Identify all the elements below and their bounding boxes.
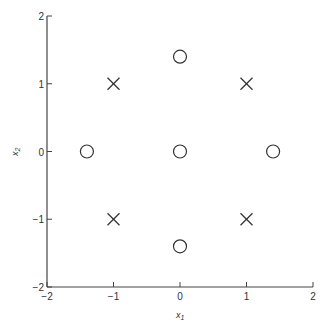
- cross-marker: [108, 78, 120, 90]
- x-tick-label: −1: [108, 291, 120, 302]
- circle-marker: [174, 145, 187, 158]
- x-axis-label: x1: [175, 310, 185, 321]
- data-points: [80, 50, 279, 253]
- cross-marker: [108, 213, 120, 225]
- y-tick-label: 1: [38, 79, 44, 90]
- x-tick-label: 0: [177, 291, 183, 302]
- scatter-chart: −2−1012−2−1012 x1 x2: [0, 0, 322, 324]
- y-axis-label: x2: [10, 148, 21, 158]
- circle-marker: [174, 240, 187, 253]
- y-tick-label: −1: [33, 214, 45, 225]
- y-tick-label: 2: [38, 11, 44, 22]
- circle-marker: [267, 145, 280, 158]
- x-tick-label: 1: [244, 291, 250, 302]
- cross-marker: [241, 213, 253, 225]
- circle-marker: [174, 50, 187, 63]
- circle-marker: [80, 145, 93, 158]
- y-tick-label: −2: [33, 282, 45, 293]
- cross-marker: [241, 78, 253, 90]
- x-tick-label: 2: [310, 291, 316, 302]
- y-tick-label: 0: [38, 147, 44, 158]
